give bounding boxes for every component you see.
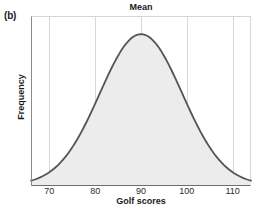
x-tick-label-110: 110: [218, 186, 248, 196]
x-tick-label-100: 100: [172, 186, 202, 196]
x-tick-label-90: 90: [126, 186, 156, 196]
distribution-curve-group: [31, 34, 251, 185]
plot-canvas: [0, 0, 258, 212]
figure-panel-b: (b) Mean Frequency 708090100110 Golf sco…: [0, 0, 258, 212]
x-tick-label-80: 80: [80, 186, 110, 196]
distribution-fill: [31, 34, 251, 185]
x-tick-label-70: 70: [34, 186, 64, 196]
x-axis-title: Golf scores: [31, 196, 251, 206]
